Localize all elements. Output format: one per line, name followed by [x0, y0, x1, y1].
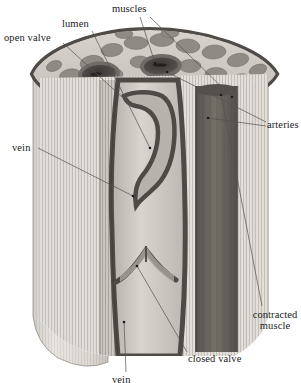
vein-channel: [111, 80, 185, 356]
label-closed-valve: closed valve: [188, 353, 241, 364]
label-vein-bottom: vein: [112, 374, 130, 383]
label-lumen: lumen: [62, 18, 89, 29]
label-contracted-muscle: contracted muscle: [249, 310, 301, 331]
figure-canvas: open valve lumen muscles arteries vein c…: [0, 0, 301, 383]
label-muscles: muscles: [112, 3, 147, 14]
label-arteries: arteries: [267, 119, 299, 130]
label-vein-left: vein: [12, 142, 30, 153]
label-open-valve: open valve: [4, 32, 51, 43]
interior-block: [30, 74, 275, 364]
contracted-muscle-column: [196, 84, 238, 352]
